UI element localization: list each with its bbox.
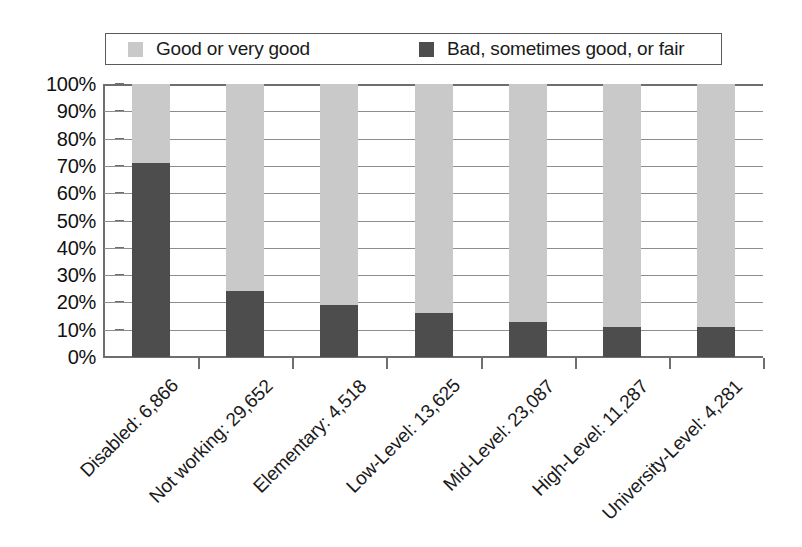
- bar-segment-bad[interactable]: [415, 313, 453, 357]
- bar-segment-bad[interactable]: [320, 305, 358, 357]
- bar-group[interactable]: [226, 84, 264, 357]
- y-axis-tick-label: 60%: [22, 182, 96, 205]
- bar-group[interactable]: [132, 84, 170, 357]
- y-axis-tick-label: 80%: [22, 127, 96, 150]
- bar-group[interactable]: [603, 84, 641, 357]
- plot-area: [104, 84, 763, 357]
- y-axis-tick-label: 30%: [22, 264, 96, 287]
- x-axis-tick-mark: [575, 358, 577, 369]
- y-axis-tick-label: 0%: [22, 346, 96, 369]
- x-axis-tick-mark: [481, 358, 483, 369]
- legend-entry-good[interactable]: Good or very good: [128, 34, 310, 64]
- bar-segment-good[interactable]: [226, 84, 264, 291]
- legend-label-good: Good or very good: [156, 38, 310, 60]
- x-axis-tick-mark: [198, 358, 200, 369]
- x-axis-tick-mark: [763, 358, 765, 369]
- y-axis-tick-label: 10%: [22, 318, 96, 341]
- x-axis-tick-mark: [669, 358, 671, 369]
- legend-label-bad: Bad, sometimes good, or fair: [447, 38, 684, 60]
- bar-group[interactable]: [697, 84, 735, 357]
- y-axis-tick-label: 40%: [22, 236, 96, 259]
- bar-segment-good[interactable]: [603, 84, 641, 327]
- legend-swatch-bad-icon: [419, 42, 434, 57]
- legend-swatch-good-icon: [128, 42, 143, 57]
- x-axis-tick-mark: [292, 358, 294, 369]
- stacked-bar-chart: Good or very good Bad, sometimes good, o…: [0, 0, 802, 547]
- y-axis-tick-label: 90%: [22, 100, 96, 123]
- bar-segment-good[interactable]: [509, 84, 547, 322]
- y-axis-tick-label: 20%: [22, 291, 96, 314]
- bar-segment-bad[interactable]: [603, 327, 641, 357]
- y-axis-tick-label: 70%: [22, 154, 96, 177]
- bar-segment-good[interactable]: [415, 84, 453, 313]
- bar-segment-good[interactable]: [697, 84, 735, 327]
- bar-segment-good[interactable]: [132, 84, 170, 163]
- chart-legend: Good or very good Bad, sometimes good, o…: [105, 33, 722, 65]
- bar-segment-good[interactable]: [320, 84, 358, 305]
- legend-entry-bad[interactable]: Bad, sometimes good, or fair: [419, 34, 684, 64]
- y-axis-tick-label: 100%: [22, 73, 96, 96]
- bar-group[interactable]: [509, 84, 547, 357]
- bar-segment-bad[interactable]: [132, 163, 170, 357]
- bar-segment-bad[interactable]: [509, 322, 547, 357]
- bar-segment-bad[interactable]: [226, 291, 264, 357]
- bar-segment-bad[interactable]: [697, 327, 735, 357]
- y-axis-tick-label: 50%: [22, 209, 96, 232]
- x-axis-tick-mark: [386, 358, 388, 369]
- bar-group[interactable]: [320, 84, 358, 357]
- bar-group[interactable]: [415, 84, 453, 357]
